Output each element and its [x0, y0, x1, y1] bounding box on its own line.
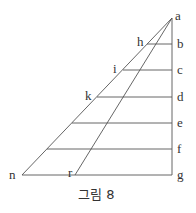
label-i: i — [113, 61, 117, 76]
label-h: h — [137, 34, 144, 49]
label-c: c — [177, 62, 183, 77]
label-a: a — [175, 8, 181, 23]
label-k: k — [85, 88, 92, 103]
label-e: e — [177, 115, 183, 130]
label-r: r — [68, 165, 73, 180]
label-d: d — [177, 89, 184, 104]
label-b: b — [177, 36, 184, 51]
label-g: g — [177, 167, 184, 182]
figure-caption: 그림 8 — [78, 187, 114, 202]
perspective-diagram: a b c d e f g h i k n r 그림 8 — [0, 0, 196, 213]
label-n: n — [9, 167, 16, 182]
line-a-n — [22, 18, 172, 175]
label-f: f — [177, 141, 182, 156]
